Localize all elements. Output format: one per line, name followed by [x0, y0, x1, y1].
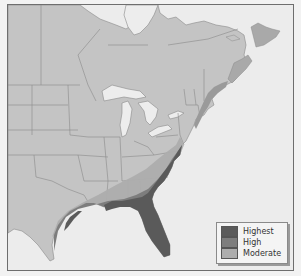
- legend: Highest High Moderate: [216, 222, 288, 264]
- legend-swatch-high: [221, 237, 238, 248]
- legend-item-high: High: [221, 237, 283, 248]
- legend-label-moderate: Moderate: [243, 248, 281, 259]
- legend-item-highest: Highest: [221, 226, 283, 237]
- legend-swatch-highest: [221, 226, 238, 237]
- legend-item-moderate: Moderate: [221, 248, 283, 259]
- legend-swatch-moderate: [221, 248, 238, 259]
- legend-label-high: High: [243, 237, 261, 248]
- legend-label-highest: Highest: [243, 226, 274, 237]
- map-frame: Highest High Moderate: [7, 4, 294, 271]
